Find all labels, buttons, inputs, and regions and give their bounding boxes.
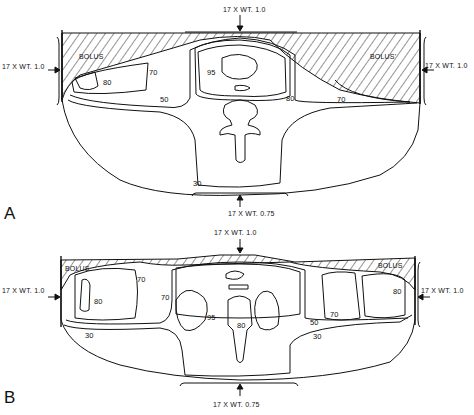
isodose-label: 70 [330,310,338,319]
isodose-label: 80 [103,78,111,87]
isodose-label: 80 [237,321,245,330]
isodose-label: 50 [310,318,318,327]
beam-label-top-a: 17 X WT. 1.0 [223,6,265,13]
panel-a-drawing [62,30,420,195]
panel-label-a: A [4,204,15,224]
isodose-label: 80 [286,94,294,103]
kidney-right-b [255,291,279,330]
isodose-label: 70 [137,275,145,284]
isodose-label: 30 [85,331,93,340]
isodose-label: 80 [94,297,102,306]
bolus-label-right-b: BOLUS [378,262,403,269]
bolus-label-right-a: BOLUS' [370,53,396,60]
panel-b-drawing [61,255,415,380]
dose-distribution-diagram [0,0,474,415]
vertebra-a [220,100,261,163]
isodose-label: 30 [313,332,321,341]
isodose-label: 30 [193,179,201,188]
isodose-label: 70 [149,68,157,77]
beam-label-bottom-b: 17 X WT. 0.75 [213,401,260,408]
isodose-label: 95 [207,313,215,322]
isodose-label: 70 [337,95,345,104]
bolus-label-left-a: BOLUS [79,53,104,60]
bolus-label-left-b: BOLUS [65,265,90,272]
isodose-label: 80 [393,287,401,296]
beam-label-top-b: 17 X WT. 1.0 [214,229,256,236]
isodose-label: 50 [160,95,168,104]
panel-label-b: B [4,388,15,408]
isodose-80-left-b [80,279,90,311]
isodose-label: 95 [207,68,215,77]
beam-label-left-b: 17 X WT. 1.0 [2,287,44,294]
beam-label-right-a: 17 X WT. 1.0 [425,62,467,69]
isodose-70-left-b [75,268,138,320]
beam-label-bottom-a: 17 X WT. 0.75 [228,210,275,217]
isodose-30-a [68,100,417,187]
kidney-left-b [176,290,207,330]
beam-label-left-a: 17 X WT. 1.0 [2,63,44,70]
isodose-70-right-b [322,272,360,320]
isodose-label: 70 [161,293,169,302]
beam-label-right-b: 17 X WT. 1.0 [421,287,463,294]
